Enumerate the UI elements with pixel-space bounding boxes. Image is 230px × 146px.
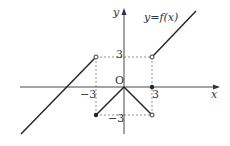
open-point-icon [150,55,154,59]
origin-label: O [115,75,124,86]
y-tick-neg3: −3 [108,113,124,124]
y-axis-label: y [113,7,119,18]
open-point-icon [150,113,154,117]
y-axis-arrow-icon [122,8,127,15]
x-tick-pos3: 3 [152,89,159,100]
function-graph: y=f(x) y x O −3 3 3 −3 [0,0,230,146]
function-label: y=f(x) [144,12,178,23]
x-tick-neg3: −3 [80,89,96,100]
closed-point-icon [94,113,98,117]
y-tick-pos3: 3 [116,49,123,60]
open-point-icon [94,55,98,59]
x-axis-label: x [211,89,217,100]
